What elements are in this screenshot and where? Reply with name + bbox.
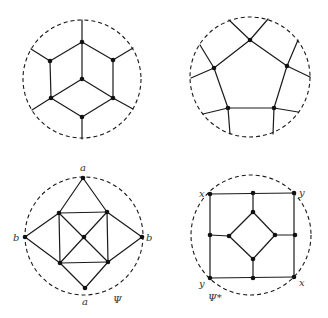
graph-vertex	[81, 176, 86, 181]
graph-edge	[229, 20, 250, 40]
graph-vertex	[111, 96, 116, 101]
graph-vertex	[49, 96, 54, 101]
graph-vertex	[57, 211, 62, 216]
panel-psi-star-graph: xyyxΨ*	[191, 175, 311, 303]
graph-edge	[107, 212, 108, 262]
dashed-boundary-circle	[190, 17, 310, 137]
graph-vertex	[140, 235, 145, 240]
graph-vertex	[111, 58, 116, 63]
graph-vertex	[83, 286, 88, 291]
graph-vertex	[212, 66, 217, 71]
graph-edge	[83, 178, 107, 212]
graph-vertex	[285, 64, 290, 69]
panel-hexagonal-cube-graph	[23, 20, 141, 139]
graph-vertex	[208, 192, 213, 197]
graph-vertex	[251, 276, 256, 281]
graph-edge	[113, 98, 133, 109]
graph-vertex	[58, 261, 63, 266]
vertex-label: Ψ	[113, 294, 123, 305]
graph-edge	[32, 98, 51, 110]
graph-edge	[287, 40, 298, 66]
graph-figure: aabbΨ xyyxΨ*	[0, 0, 328, 318]
graph-edge	[82, 79, 113, 98]
graph-edge	[273, 108, 274, 134]
vertex-label: Ψ*	[208, 292, 222, 303]
graph-edge	[214, 40, 250, 68]
graph-vertex	[292, 275, 297, 280]
graph-edge	[229, 212, 253, 236]
graph-vertex	[251, 191, 256, 196]
graph-vertex	[292, 191, 297, 196]
graph-edge	[200, 45, 214, 68]
graph-edge	[82, 98, 113, 117]
vertex-label: x	[199, 188, 205, 199]
graph-vertex	[293, 233, 298, 238]
graph-vertex	[227, 234, 232, 239]
graph-vertex	[105, 210, 110, 215]
graph-edge	[60, 263, 85, 288]
graph-vertex	[251, 257, 256, 262]
graph-vertex	[226, 106, 231, 111]
graph-edge	[51, 98, 82, 117]
vertex-label: x	[299, 277, 305, 288]
graph-edge	[228, 108, 230, 134]
graph-edge	[85, 262, 108, 288]
graph-edge	[229, 236, 253, 259]
graph-vertex	[80, 115, 85, 120]
graph-vertex	[208, 276, 213, 281]
graph-edge	[214, 68, 228, 108]
graph-edge	[191, 68, 214, 78]
graph-edge	[51, 79, 82, 98]
graph-vertex	[106, 260, 111, 265]
panel-psi-graph: aabbΨ	[13, 162, 152, 307]
graph-edge	[59, 212, 107, 213]
graph-edge	[60, 262, 108, 263]
graph-vertex	[272, 106, 277, 111]
graph-edge	[287, 66, 310, 77]
graph-edge	[113, 48, 133, 60]
graph-edge	[210, 235, 229, 236]
graph-vertex	[80, 77, 85, 82]
vertex-label: y	[298, 187, 305, 198]
graph-vertex	[251, 210, 256, 215]
graph-vertex	[23, 235, 28, 240]
vertex-label: a	[80, 162, 86, 173]
graph-edge	[59, 213, 60, 263]
panel-pentagon-graph	[190, 17, 310, 137]
graph-edge	[50, 61, 51, 98]
graph-edge	[59, 178, 83, 213]
vertex-label: b	[13, 232, 19, 243]
graph-vertex	[273, 233, 278, 238]
vertex-label: y	[198, 278, 205, 289]
graph-edge	[31, 49, 50, 61]
graph-edge	[250, 40, 287, 66]
graph-edge	[108, 237, 142, 262]
graph-vertex	[82, 235, 87, 240]
graph-edge	[50, 42, 82, 61]
graph-vertex	[248, 38, 253, 43]
graph-vertex	[208, 233, 213, 238]
graph-edge	[25, 213, 59, 237]
graph-edge	[253, 235, 275, 259]
graph-edge	[274, 66, 287, 108]
graph-edge	[82, 42, 113, 60]
vertex-label: a	[82, 296, 88, 307]
graph-vertex	[80, 40, 85, 45]
graph-edge	[253, 212, 275, 235]
graph-vertex	[48, 59, 53, 64]
graph-edge	[203, 108, 228, 114]
graph-edge	[274, 108, 298, 112]
graph-edge	[107, 212, 142, 237]
graph-edge	[250, 19, 268, 40]
vertex-label: b	[146, 232, 152, 243]
